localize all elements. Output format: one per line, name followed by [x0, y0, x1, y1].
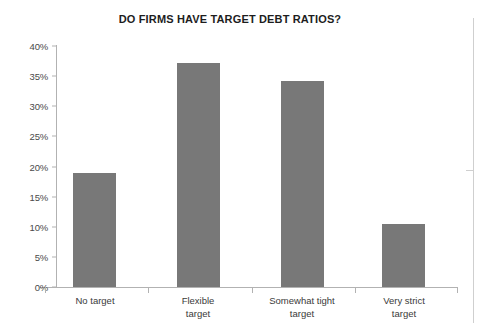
y-tick-label-25: 25%: [30, 131, 57, 142]
bar-very-strict: [382, 224, 425, 287]
x-tick-mark-2: [252, 287, 253, 293]
x-label-flexible-target-line-2: target: [138, 307, 258, 320]
y-tick-label-10: 10%: [30, 221, 57, 232]
bar-somewhat-tight: [281, 81, 324, 287]
bar-flexible-target: [177, 63, 220, 287]
y-tick-label-20: 20%: [30, 161, 57, 172]
x-tick-mark-4: [457, 287, 458, 293]
y-tick-label-30: 30%: [30, 101, 57, 112]
plot-area: 0% 5% 10% 15% 20% 25% 30% 35% 40%: [57, 46, 447, 287]
x-label-very-strict-target: Very strict target: [344, 294, 464, 320]
x-label-flexible-target-line-1: Flexible: [138, 294, 258, 307]
x-axis-line: [40, 287, 458, 288]
page-edge-artifact-line: [473, 18, 474, 323]
x-tick-mark-0: [45, 287, 46, 293]
page-edge-artifact-tick: [466, 170, 473, 171]
chart-title: DO FIRMS HAVE TARGET DEBT RATIOS?: [0, 13, 460, 25]
y-tick-label-15: 15%: [30, 191, 57, 202]
x-label-very-strict-target-line-1: Very strict: [344, 294, 464, 307]
x-tick-mark-1: [148, 287, 149, 293]
x-tick-mark-3: [355, 287, 356, 293]
x-label-very-strict-target-line-2: target: [344, 307, 464, 320]
x-label-flexible-target: Flexible target: [138, 294, 258, 320]
y-tick-label-40: 40%: [30, 41, 57, 52]
x-label-no-target-line-1: No target: [35, 294, 155, 307]
y-tick-label-35: 35%: [30, 71, 57, 82]
x-label-no-target: No target: [35, 294, 155, 307]
bar-no-target: [73, 173, 116, 287]
y-tick-label-5: 5%: [35, 251, 57, 262]
bar-chart-figure: DO FIRMS HAVE TARGET DEBT RATIOS? 0% 5% …: [0, 0, 483, 332]
